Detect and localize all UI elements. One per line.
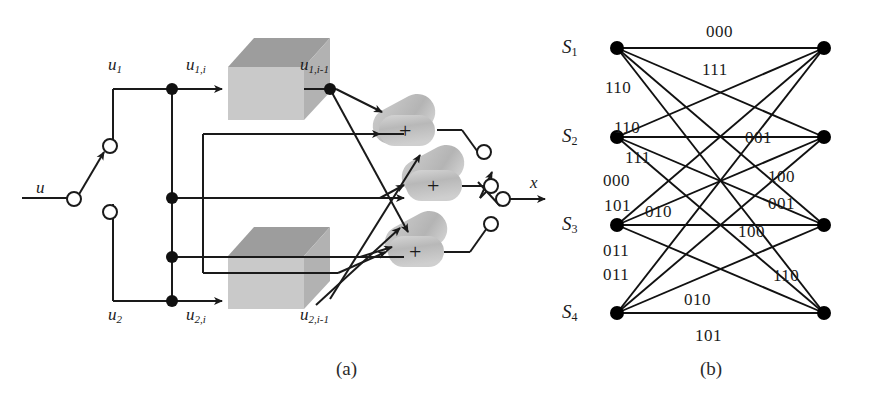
node-right-s2	[817, 130, 831, 144]
branch-label-u2-sub: 2	[117, 313, 123, 325]
branch-label-u1-base: u	[108, 55, 117, 74]
edge-label-110-right: 110	[773, 266, 799, 286]
node-right-s4	[817, 306, 831, 320]
output-contact-3	[484, 217, 498, 231]
junction-low	[166, 251, 178, 263]
figure-vector-layer	[0, 0, 874, 401]
signal-label-u2i: u2,i	[186, 305, 206, 325]
switch-pole-contact	[67, 192, 81, 206]
junction-u2	[166, 295, 178, 307]
state-label-s3: S3	[562, 213, 578, 237]
signal-label-u2i-1: u2,i-1	[300, 305, 329, 325]
branch-label-u1: u1	[108, 55, 122, 75]
diagram-a-wires	[22, 89, 545, 305]
signal-u1i-1-sub: 1,i-1	[309, 63, 329, 75]
signal-u1i-1-base: u	[300, 55, 309, 74]
edge-label-010-mid: 010	[645, 202, 672, 222]
junction-mid	[166, 192, 178, 204]
signal-u2i-base: u	[186, 305, 195, 324]
adder-2-symbol: +	[427, 175, 439, 197]
state-s1-sub: 1	[572, 45, 578, 59]
delay-block-upper	[228, 38, 330, 120]
state-s2-base: S	[562, 125, 572, 146]
caption-b: (b)	[700, 358, 722, 380]
edge-label-001-mid: 001	[745, 128, 772, 148]
signal-label-u1i-1: u1,i-1	[300, 55, 329, 75]
figure-container: u u1 u2 u1,i u1,i-1 u2,i u2,i-1 x + + + …	[0, 0, 874, 401]
branch-label-u2: u2	[108, 305, 122, 325]
edge-label-010-bottom: 010	[684, 290, 711, 310]
edge-label-000-top: 000	[706, 22, 733, 42]
state-s1-base: S	[562, 36, 572, 57]
edge-label-110-second: 110	[614, 118, 640, 138]
switch-upper-contact	[103, 139, 117, 153]
signal-u2i-1-base: u	[300, 305, 309, 324]
signal-u2i-1-sub: 2,i-1	[309, 313, 329, 325]
node-right-s3	[817, 218, 831, 232]
edge-label-011-upper: 011	[603, 241, 629, 261]
signal-u1i-base: u	[186, 55, 195, 74]
diagram-a-vectors	[22, 38, 545, 309]
node-left-s3	[610, 218, 624, 232]
adder-1-symbol: +	[399, 120, 411, 142]
adder-3-symbol: +	[409, 241, 421, 263]
edge-label-111-lower: 111	[625, 148, 651, 168]
signal-u1i-sub: 1,i	[195, 63, 206, 75]
switch-lower-contact	[103, 205, 117, 219]
node-right-s1	[817, 41, 831, 55]
input-label-u: u	[36, 178, 45, 198]
junction-u1	[166, 83, 178, 95]
edge-label-011-lower: 011	[603, 265, 629, 285]
output-pole-contact	[496, 192, 510, 206]
edge-label-111-upper: 111	[702, 60, 728, 80]
state-s4-base: S	[562, 301, 572, 322]
node-left-s4	[610, 306, 624, 320]
output-contact-2	[484, 179, 498, 193]
state-label-s2: S2	[562, 125, 578, 149]
signal-label-u1i: u1,i	[186, 55, 206, 75]
state-s2-sub: 2	[572, 134, 578, 148]
branch-label-u2-base: u	[108, 305, 117, 324]
delay-block-lower	[228, 227, 330, 309]
edge-label-100-mid: 100	[738, 222, 765, 242]
signal-u2i-sub: 2,i	[195, 313, 206, 325]
edge-label-000-left: 000	[603, 171, 630, 191]
state-s3-base: S	[562, 213, 572, 234]
output-label-x: x	[530, 173, 538, 193]
state-s3-sub: 3	[572, 222, 578, 236]
node-left-s1	[610, 41, 624, 55]
caption-a: (a)	[336, 358, 357, 380]
state-label-s1: S1	[562, 36, 578, 60]
state-s4-sub: 4	[572, 310, 578, 324]
edge-label-101-bottom: 101	[695, 326, 722, 346]
edge-label-100-right: 100	[768, 167, 795, 187]
edge-label-110-upper: 110	[605, 78, 631, 98]
edge-label-001-right: 001	[768, 194, 795, 214]
state-label-s4: S4	[562, 301, 578, 325]
output-contact-1	[477, 145, 491, 159]
branch-label-u1-sub: 1	[117, 63, 123, 75]
junction-u1-delayed	[324, 83, 336, 95]
edge-label-101-left: 101	[604, 196, 631, 216]
